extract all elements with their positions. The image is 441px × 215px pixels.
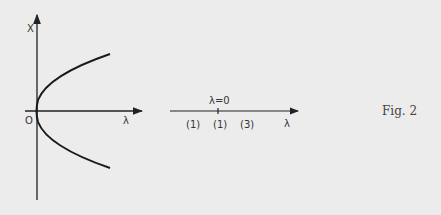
number-line [170, 108, 298, 114]
zero-tick-label: λ=0 [209, 96, 230, 106]
region-label-1: (1) [186, 120, 200, 130]
left-graph [25, 15, 142, 200]
figure-canvas [0, 0, 441, 215]
x-axis-label: λ [123, 116, 129, 126]
origin-label: O [25, 116, 33, 126]
region-label-2: (1) [213, 120, 227, 130]
lambda-axis-label: λ [284, 119, 290, 129]
y-axis-label: X [27, 24, 34, 34]
region-label-3: (3) [240, 120, 254, 130]
figure-caption: Fig. 2 [382, 104, 417, 118]
